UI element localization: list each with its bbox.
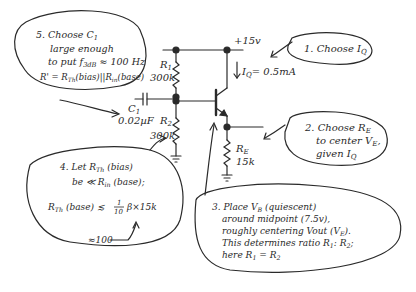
svg-text:5. Choose C1: 5. Choose C1 <box>36 29 98 42</box>
note-4-text: 4. Let RTh (bias) be ≪ Rin (base); RTh (… <box>47 162 157 245</box>
svg-text:large enough: large enough <box>50 43 114 54</box>
re-value: 15k <box>236 156 255 167</box>
resistor-re <box>224 140 230 166</box>
svg-text:to center VE,: to center VE, <box>316 135 381 148</box>
svg-text:here R1 = R2: here R1 = R2 <box>222 250 280 261</box>
svg-text:R' = RTh(bias)||Rin(base): R' = RTh(bias)||Rin(base) <box>39 72 144 83</box>
svg-text:This determines ratio R1: R2;: This determines ratio R1: R2; <box>222 238 353 249</box>
svg-text:4. Let RTh (bias): 4. Let RTh (bias) <box>59 162 133 173</box>
r1-value: 300k <box>150 72 175 83</box>
circuit-diagram: +15v IQ= 0.5mA R1 300k R2 300k RE 15k C1… <box>0 0 416 292</box>
svg-text:3. Place VB (quiescent): 3. Place VB (quiescent) <box>212 202 317 213</box>
svg-text:roughly centering Vout (VE).: roughly centering Vout (VE). <box>222 226 351 237</box>
svg-text:around midpoint (7.5v),: around midpoint (7.5v), <box>222 214 330 224</box>
c1-value: 0.02µF <box>118 115 155 126</box>
r2-value: 300k <box>150 130 175 141</box>
note-1-text: 1. Choose IQ <box>304 43 367 56</box>
r2-label: R2 <box>159 115 173 128</box>
svg-text:2. Choose RE: 2. Choose RE <box>304 122 371 135</box>
svg-text:to put f3dB ≈ 100 Hz: to put f3dB ≈ 100 Hz <box>48 56 146 69</box>
svg-text:RTh (base) ≲: RTh (base) ≲ <box>47 202 105 213</box>
svg-text:be ≪ Rin (base);: be ≪ Rin (base); <box>72 177 145 188</box>
note-5-text: 5. Choose C1 large enough to put f3dB ≈ … <box>36 29 146 83</box>
note-2-text: 2. Choose RE to center VE, given IQ <box>304 122 381 161</box>
svg-text:10: 10 <box>114 208 123 216</box>
note-3-text: 3. Place VB (quiescent) around midpoint … <box>212 202 353 261</box>
svg-text:given IQ: given IQ <box>316 148 357 161</box>
r1-label: R1 <box>159 59 172 72</box>
supply-label: +15v <box>234 35 261 46</box>
re-label: RE <box>235 143 249 156</box>
svg-text:1: 1 <box>117 199 121 207</box>
iq-label: IQ= 0.5mA <box>241 66 296 79</box>
svg-text:≈100: ≈100 <box>88 235 113 245</box>
svg-text:β×15k: β×15k <box>126 202 157 212</box>
arrow-icon <box>205 125 214 195</box>
arrow-icon <box>272 42 292 56</box>
